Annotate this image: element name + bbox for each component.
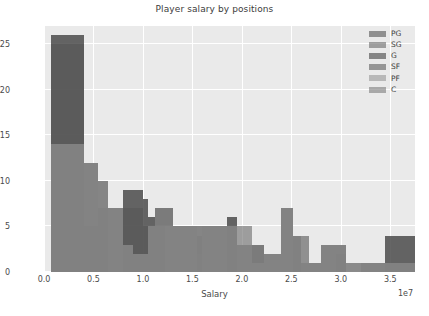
- legend: PGSGGSFPFC: [369, 28, 421, 95]
- legend-item[interactable]: PG: [369, 28, 421, 39]
- legend-item[interactable]: PF: [369, 73, 421, 84]
- x-axis-exponent: 1e7: [398, 289, 413, 298]
- legend-swatch: [369, 53, 386, 59]
- histogram-bar: [133, 254, 148, 272]
- x-tick-label: 3.0: [334, 275, 347, 284]
- legend-swatch: [369, 42, 386, 48]
- grid-line-vertical: [341, 26, 342, 272]
- histogram-bar: [301, 263, 321, 272]
- x-tick-label: 1.5: [186, 275, 199, 284]
- legend-label: SF: [391, 63, 400, 71]
- y-tick-label: 5: [0, 222, 10, 231]
- histogram-bar: [264, 254, 282, 272]
- x-tick-label: 2.0: [235, 275, 248, 284]
- y-tick-label: 10: [0, 176, 10, 185]
- figure: Player salary by positions 0510152025 Fr…: [0, 0, 429, 316]
- x-tick-label: 3.5: [384, 275, 397, 284]
- x-tick-label: 0.0: [38, 275, 51, 284]
- histogram-bar: [321, 245, 346, 272]
- histogram-bar: [173, 226, 237, 272]
- histogram-bar: [361, 263, 415, 272]
- histogram-bar: [281, 208, 293, 272]
- legend-label: PF: [391, 75, 400, 83]
- histogram-bar: [51, 144, 84, 272]
- x-axis-label: Salary: [0, 289, 429, 299]
- grid-line-vertical: [44, 26, 45, 272]
- legend-swatch: [369, 64, 386, 70]
- grid-line-horizontal: [44, 43, 415, 44]
- histogram-bar: [252, 263, 264, 272]
- y-tick-label: 20: [0, 85, 10, 94]
- x-tick-label: 2.5: [285, 275, 298, 284]
- histogram-bar: [346, 263, 361, 272]
- x-tick-label: 1.0: [137, 275, 150, 284]
- histogram-bar: [123, 245, 133, 272]
- histogram-bar: [293, 236, 301, 272]
- histogram-bar: [98, 208, 123, 272]
- grid-line-horizontal: [44, 134, 415, 135]
- legend-label: G: [391, 52, 397, 60]
- legend-label: PG: [391, 30, 401, 38]
- legend-swatch: [369, 75, 386, 81]
- plot-area: [44, 26, 415, 272]
- legend-item[interactable]: C: [369, 84, 421, 95]
- grid-line-horizontal: [44, 89, 415, 90]
- y-tick-label: 15: [0, 131, 10, 140]
- histogram-bar: [148, 226, 173, 272]
- histogram-bar: [237, 245, 252, 272]
- legend-item[interactable]: SF: [369, 62, 421, 73]
- legend-label: SG: [391, 41, 402, 49]
- legend-swatch: [369, 31, 386, 37]
- y-tick-label: 0: [0, 268, 10, 277]
- legend-label: C: [391, 86, 396, 94]
- y-tick-label: 25: [0, 40, 10, 49]
- legend-item[interactable]: G: [369, 50, 421, 61]
- x-tick-label: 0.5: [87, 275, 100, 284]
- chart-title: Player salary by positions: [0, 4, 429, 14]
- legend-swatch: [369, 87, 386, 93]
- histogram-bar: [84, 163, 99, 272]
- legend-item[interactable]: SG: [369, 39, 421, 50]
